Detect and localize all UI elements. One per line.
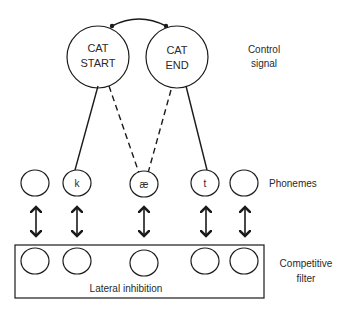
control-signal-label: signal (251, 58, 277, 69)
phonemes-label: Phonemes (269, 178, 317, 189)
diagram-canvas: CAT START CAT END Control signal k æ t P… (0, 0, 351, 312)
phoneme-node-ae: æ (130, 171, 158, 197)
filter-node (63, 248, 91, 274)
control-node-cat-end: CAT END (146, 26, 208, 88)
phoneme-node (21, 170, 49, 196)
phoneme-node (230, 170, 258, 196)
control-signal-label: Control (248, 44, 280, 55)
connection-start-k (75, 86, 98, 170)
connection-end-ae (148, 90, 171, 173)
node-label: END (165, 59, 188, 71)
connection-start-ae (109, 86, 139, 173)
arc-end-dot (110, 24, 114, 28)
phoneme-node-t: t (191, 170, 219, 196)
node-label: CAT (166, 44, 187, 56)
filter-node (21, 248, 49, 274)
filter-node (130, 250, 158, 276)
node-label: CAT (87, 42, 108, 54)
inhibition-arc (112, 19, 166, 26)
node-label: START (80, 57, 115, 69)
connection-end-t (186, 86, 207, 170)
competitive-filter-label: filter (297, 273, 317, 284)
filter-node (191, 248, 219, 274)
svg-text:t: t (204, 178, 207, 189)
lateral-inhibition-label: Lateral inhibition (90, 283, 163, 294)
competitive-filter-label: Competitive (280, 258, 333, 269)
control-node-cat-start: CAT START (67, 26, 129, 88)
svg-text:æ: æ (140, 179, 149, 190)
phoneme-node-k: k (63, 170, 91, 196)
filter-node (230, 248, 258, 274)
